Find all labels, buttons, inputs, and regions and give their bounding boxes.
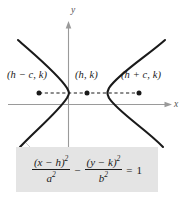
formula-equals: = <box>125 164 133 176</box>
hyperbola-left-branch <box>18 40 69 147</box>
term2-numerator: (y − k)2 <box>85 155 123 169</box>
term1-denominator: a2 <box>45 170 58 184</box>
term1-numerator: (x − h)2 <box>32 155 70 169</box>
hyperbola-standard-equation: (x − h)2 a2 − (y − k)2 b2 = 1 <box>16 147 158 192</box>
point-right-focus <box>137 91 142 96</box>
formula-operator: − <box>73 164 81 176</box>
point-left-focus <box>37 91 42 96</box>
formula-box: (x − h)2 a2 − (y − k)2 b2 = 1 <box>16 147 158 192</box>
term2-denominator: b2 <box>97 170 110 184</box>
point-center <box>85 91 90 96</box>
label-center: (h, k) <box>75 70 98 81</box>
x-axis <box>8 102 172 108</box>
formula-term-2: (y − k)2 b2 <box>85 155 123 184</box>
formula-term-1: (x − h)2 a2 <box>32 155 70 184</box>
x-axis-label: x <box>174 100 178 110</box>
y-axis-label: y <box>71 6 75 16</box>
formula-rhs: 1 <box>137 164 143 176</box>
label-right-focus: (h + c, k) <box>121 70 161 81</box>
label-left-focus: (h − c, k) <box>7 70 47 81</box>
